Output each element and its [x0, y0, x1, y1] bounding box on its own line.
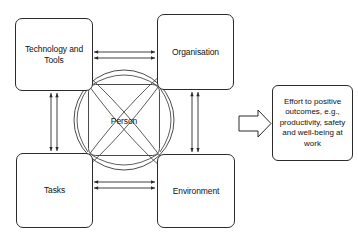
- node-environment-label: Environment: [170, 186, 223, 197]
- arc-left-vertical: [77, 88, 88, 152]
- node-tasks-label: Tasks: [41, 185, 68, 196]
- node-technology-and-tools[interactable]: Technology and Tools: [15, 18, 93, 91]
- outcomes-callout-label: Effort to positive outcomes, e.g., produ…: [275, 97, 350, 149]
- block-arrow-right-icon: [239, 110, 271, 137]
- node-environment[interactable]: Environment: [157, 154, 235, 228]
- node-organisation[interactable]: Organisation: [157, 14, 234, 90]
- node-organisation-label: Organisation: [169, 47, 222, 58]
- outcomes-callout-box[interactable]: Effort to positive outcomes, e.g., produ…: [272, 85, 353, 161]
- arc-right-vertical: [160, 88, 171, 152]
- center-label-person: Person: [88, 116, 160, 126]
- diagram-canvas: Technology and Tools Organisation Tasks …: [0, 0, 358, 241]
- node-tasks[interactable]: Tasks: [16, 153, 93, 228]
- node-technology-and-tools-label: Technology and Tools: [22, 44, 86, 66]
